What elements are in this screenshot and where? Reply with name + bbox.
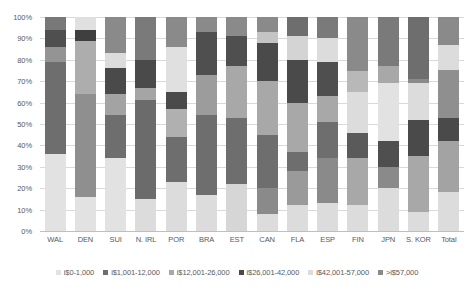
bar-segment[interactable] xyxy=(196,115,217,194)
stacked-bar[interactable] xyxy=(105,17,126,231)
bar-segment[interactable] xyxy=(75,17,96,30)
stacked-bar[interactable] xyxy=(135,17,156,231)
bar-segment[interactable] xyxy=(75,41,96,95)
bar-segment[interactable] xyxy=(287,103,308,152)
bar-segment[interactable] xyxy=(45,30,66,47)
bar-segment[interactable] xyxy=(287,152,308,171)
bar-segment[interactable] xyxy=(196,32,217,75)
stacked-bar[interactable] xyxy=(408,17,429,231)
stacked-bar[interactable] xyxy=(347,17,368,231)
bar-segment[interactable] xyxy=(166,109,187,137)
bar-segment[interactable] xyxy=(438,17,459,45)
bar-segment[interactable] xyxy=(438,192,459,231)
bar-segment[interactable] xyxy=(378,83,399,141)
bar-segment[interactable] xyxy=(75,94,96,197)
stacked-bar[interactable] xyxy=(257,17,278,231)
bar-segment[interactable] xyxy=(196,75,217,116)
bar-segment[interactable] xyxy=(257,32,278,43)
bar-segment[interactable] xyxy=(196,17,217,32)
bar-segment[interactable] xyxy=(75,197,96,231)
bar-segment[interactable] xyxy=(257,214,278,231)
bar-segment[interactable] xyxy=(287,17,308,36)
bar-segment[interactable] xyxy=(317,122,338,158)
bar-segment[interactable] xyxy=(378,141,399,167)
bar-segment[interactable] xyxy=(226,17,247,36)
stacked-bar[interactable] xyxy=(317,17,338,231)
bar-segment[interactable] xyxy=(226,66,247,117)
bar-segment[interactable] xyxy=(347,92,368,133)
bar-segment[interactable] xyxy=(378,188,399,231)
bar-segment[interactable] xyxy=(378,66,399,83)
bar-segment[interactable] xyxy=(317,38,338,62)
bar-segment[interactable] xyxy=(347,205,368,231)
bar-segment[interactable] xyxy=(317,203,338,231)
bar-segment[interactable] xyxy=(287,205,308,231)
legend-item[interactable]: i$26,001-42,000 xyxy=(239,268,300,277)
bar-segment[interactable] xyxy=(166,137,187,182)
legend-item[interactable]: i$1,001-12,000 xyxy=(103,268,160,277)
stacked-bar[interactable] xyxy=(166,17,187,231)
bar-segment[interactable] xyxy=(105,53,126,68)
legend-item[interactable]: i$42,001-57,000 xyxy=(308,268,369,277)
bar-segment[interactable] xyxy=(226,36,247,66)
bar-segment[interactable] xyxy=(45,62,66,154)
bar-segment[interactable] xyxy=(166,47,187,92)
stacked-bar[interactable] xyxy=(287,17,308,231)
bar-segment[interactable] xyxy=(105,115,126,158)
bar-segment[interactable] xyxy=(317,62,338,96)
bar-segment[interactable] xyxy=(408,156,429,212)
bar-segment[interactable] xyxy=(166,182,187,231)
stacked-bar[interactable] xyxy=(196,17,217,231)
bar-segment[interactable] xyxy=(105,94,126,115)
bar-segment[interactable] xyxy=(226,184,247,231)
stacked-bar[interactable] xyxy=(75,17,96,231)
bar-segment[interactable] xyxy=(135,88,156,101)
bar-segment[interactable] xyxy=(135,60,156,88)
legend-item[interactable]: i$0-1,000 xyxy=(56,268,94,277)
bar-segment[interactable] xyxy=(438,118,459,142)
bar-segment[interactable] xyxy=(347,133,368,159)
bar-segment[interactable] xyxy=(105,68,126,94)
bar-segment[interactable] xyxy=(45,47,66,62)
bar-segment[interactable] xyxy=(408,212,429,231)
bar-segment[interactable] xyxy=(378,167,399,188)
bar-segment[interactable] xyxy=(135,199,156,231)
bar-segment[interactable] xyxy=(105,158,126,231)
bar-segment[interactable] xyxy=(105,17,126,53)
bar-segment[interactable] xyxy=(287,171,308,205)
bar-segment[interactable] xyxy=(438,45,459,71)
bar-segment[interactable] xyxy=(347,158,368,205)
stacked-bar[interactable] xyxy=(438,17,459,231)
legend-item[interactable]: >i$57,000 xyxy=(378,268,418,277)
bar-segment[interactable] xyxy=(408,120,429,156)
bar-segment[interactable] xyxy=(317,96,338,122)
bar-segment[interactable] xyxy=(347,71,368,92)
stacked-bar[interactable] xyxy=(378,17,399,231)
bar-segment[interactable] xyxy=(257,81,278,135)
bar-segment[interactable] xyxy=(166,17,187,47)
bar-segment[interactable] xyxy=(317,158,338,203)
bar-segment[interactable] xyxy=(287,60,308,103)
bar-segment[interactable] xyxy=(196,195,217,231)
bar-segment[interactable] xyxy=(257,188,278,214)
bar-segment[interactable] xyxy=(347,17,368,71)
bar-segment[interactable] xyxy=(257,17,278,32)
bar-segment[interactable] xyxy=(257,135,278,189)
bar-segment[interactable] xyxy=(438,141,459,192)
bar-segment[interactable] xyxy=(45,17,66,30)
bar-segment[interactable] xyxy=(257,43,278,82)
bar-segment[interactable] xyxy=(408,17,429,79)
legend-item[interactable]: i$12,001-26,000 xyxy=(169,268,230,277)
bar-segment[interactable] xyxy=(45,154,66,231)
bar-segment[interactable] xyxy=(378,17,399,66)
bar-segment[interactable] xyxy=(75,30,96,41)
bar-segment[interactable] xyxy=(226,118,247,184)
bar-segment[interactable] xyxy=(135,17,156,60)
bar-segment[interactable] xyxy=(438,70,459,117)
bar-segment[interactable] xyxy=(408,83,429,119)
bar-segment[interactable] xyxy=(287,36,308,60)
bar-segment[interactable] xyxy=(317,17,338,38)
bar-segment[interactable] xyxy=(166,92,187,109)
stacked-bar[interactable] xyxy=(45,17,66,231)
stacked-bar[interactable] xyxy=(226,17,247,231)
